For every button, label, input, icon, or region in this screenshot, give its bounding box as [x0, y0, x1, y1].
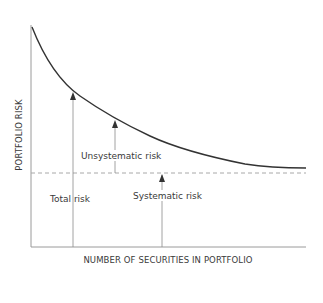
risk-diagram: Unsystematic risk Total risk Systematic … — [0, 0, 323, 303]
unsystematic-risk-label: Unsystematic risk — [81, 151, 162, 161]
systematic-risk-arrowhead-icon — [159, 174, 165, 182]
x-axis-label: NUMBER OF SECURITIES IN PORTFOLIO — [83, 255, 252, 265]
systematic-risk-label: Systematic risk — [133, 191, 203, 201]
y-axis-label: PORTFOLIO RISK — [14, 99, 24, 171]
unsystematic-risk-arrowhead-icon — [112, 120, 118, 128]
total-risk-label: Total risk — [49, 194, 91, 204]
